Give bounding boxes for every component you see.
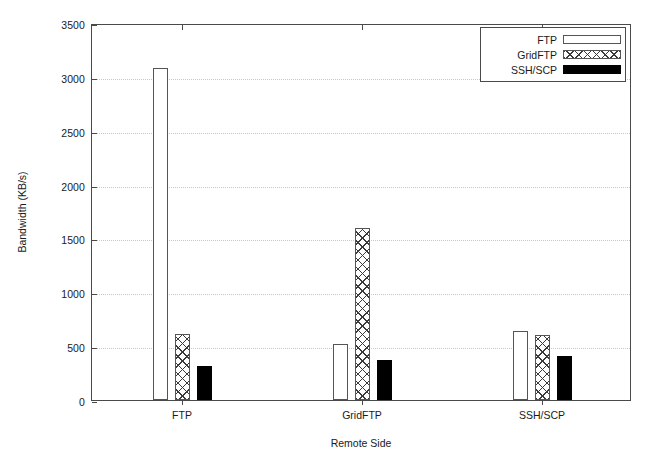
legend-item: SSH/SCP (481, 62, 621, 77)
gridline (92, 187, 630, 188)
legend-item: FTP (481, 32, 621, 47)
x-tick-label: GridFTP (342, 409, 382, 421)
legend-swatch-solid (563, 65, 621, 74)
legend-label: GridFTP (517, 49, 557, 61)
x-axis-title: Remote Side (331, 437, 392, 449)
y-tick-label: 500 (67, 342, 85, 354)
y-tick-mark (92, 240, 97, 241)
bar-ftp-ssh-scp (513, 331, 528, 400)
y-tick-mark (92, 402, 97, 403)
bar-ftp-ftp (153, 68, 168, 400)
x-tick-mark (182, 400, 183, 405)
bar-ftp-gridftp (333, 344, 348, 400)
y-tick-label: 1500 (61, 234, 85, 246)
x-tick-mark (362, 400, 363, 405)
legend-label: FTP (537, 34, 557, 46)
y-tick-label: 2500 (61, 127, 85, 139)
bar-ssh-scp-gridftp (377, 360, 392, 400)
bar-gridftp-ftp (175, 334, 190, 400)
x-tick-mark-top (362, 25, 363, 30)
bar-gridftp-ssh-scp (535, 335, 550, 400)
bar-ssh-scp-ssh-scp (557, 356, 572, 400)
y-tick-label: 1000 (61, 288, 85, 300)
legend-swatch-open (563, 35, 621, 44)
y-tick-label: 3000 (61, 73, 85, 85)
chart-legend: FTPGridFTPSSH/SCP (480, 27, 626, 82)
y-tick-label: 0 (79, 396, 85, 408)
gridline (92, 133, 630, 134)
bar-gridftp-gridftp (355, 228, 370, 400)
y-tick-mark (92, 294, 97, 295)
x-tick-mark-top (182, 25, 183, 30)
legend-swatch-hatch (563, 50, 621, 59)
y-tick-label: 3500 (61, 19, 85, 31)
y-axis-title: Bandwidth (KB/s) (16, 171, 28, 252)
y-tick-label: 2000 (61, 181, 85, 193)
y-tick-mark (92, 348, 97, 349)
chart-figure: Bandwidth (KB/s) Remote Side 05001000150… (0, 0, 666, 475)
x-tick-mark (542, 400, 543, 405)
y-tick-mark (92, 187, 97, 188)
legend-item: GridFTP (481, 47, 621, 62)
legend-label: SSH/SCP (511, 64, 557, 76)
y-tick-mark (92, 133, 97, 134)
y-tick-mark (92, 25, 97, 26)
x-tick-label: SSH/SCP (519, 409, 565, 421)
y-tick-mark (92, 79, 97, 80)
bar-ssh-scp-ftp (197, 366, 212, 400)
x-tick-label: FTP (172, 409, 192, 421)
